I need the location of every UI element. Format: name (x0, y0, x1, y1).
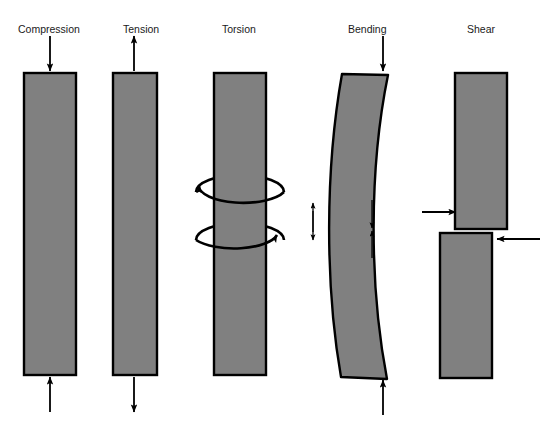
label-tension: Tension (123, 23, 159, 35)
label-bending: Bending (348, 23, 387, 35)
label-torsion: Torsion (222, 23, 256, 35)
shear-lower-block (440, 233, 492, 378)
panel-compression: Compression (18, 23, 80, 412)
shear-upper-block (455, 73, 507, 229)
torsion-member (214, 73, 266, 375)
tension-member (113, 73, 157, 375)
mechanical-loading-diagram: Compression Tension Torsion Bending (0, 0, 548, 427)
label-compression: Compression (18, 23, 80, 35)
panel-tension: Tension (113, 23, 159, 412)
compression-member (24, 73, 76, 375)
label-shear: Shear (467, 23, 496, 35)
